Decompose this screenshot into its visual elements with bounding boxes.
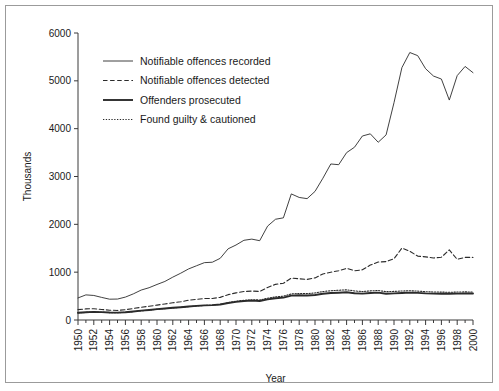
x-tick-label: 1982 — [325, 329, 336, 352]
x-tick-label: 1956 — [120, 329, 131, 352]
x-tick-label: 1988 — [373, 329, 384, 352]
series-line-1 — [78, 53, 473, 300]
y-tick-label: 4000 — [49, 123, 72, 134]
x-tick-label: 1992 — [404, 329, 415, 352]
y-tick-label: 5000 — [49, 75, 72, 86]
x-tick-label: 1980 — [310, 329, 321, 352]
y-tick-label: 2000 — [49, 219, 72, 230]
x-tick-label: 1986 — [357, 329, 368, 352]
x-tick-label: 1970 — [231, 329, 242, 352]
x-tick-label: 1964 — [183, 329, 194, 352]
y-tick-label: 0 — [65, 315, 71, 326]
x-tick-label: 2000 — [468, 329, 479, 352]
x-tick-label: 1976 — [278, 329, 289, 352]
x-axis-title: Year — [265, 373, 286, 384]
y-tick-label: 3000 — [49, 171, 72, 182]
y-axis-title: Thousands — [22, 152, 33, 201]
x-tick-label: 1950 — [73, 329, 84, 352]
x-tick-label: 1998 — [452, 329, 463, 352]
x-tick-label: 1952 — [88, 329, 99, 352]
series-line-2 — [78, 248, 473, 310]
x-tick-label: 1974 — [262, 329, 273, 352]
legend-label-2: Notifiable offences detected — [140, 74, 270, 86]
x-tick-label: 1966 — [199, 329, 210, 352]
legend-label-1: Notifiable offences recorded — [140, 55, 271, 67]
x-tick-label: 1984 — [341, 329, 352, 352]
x-tick-label: 1990 — [389, 329, 400, 352]
chart-figure: 0100020003000400050006000195019521954195… — [0, 0, 499, 391]
x-tick-label: 1968 — [215, 329, 226, 352]
series-line-3 — [78, 292, 473, 312]
x-tick-label: 1958 — [136, 329, 147, 352]
x-tick-label: 1996 — [436, 329, 447, 352]
y-tick-label: 1000 — [49, 267, 72, 278]
x-tick-label: 1972 — [246, 329, 257, 352]
x-tick-label: 1954 — [104, 329, 115, 352]
line-chart: 0100020003000400050006000195019521954195… — [0, 0, 499, 391]
x-tick-label: 1960 — [152, 329, 163, 352]
x-tick-label: 1994 — [420, 329, 431, 352]
x-tick-label: 1962 — [167, 329, 178, 352]
legend-label-3: Offenders prosecuted — [140, 94, 241, 106]
legend-label-4: Found guilty & cautioned — [140, 113, 256, 125]
y-tick-label: 6000 — [49, 28, 72, 39]
x-tick-label: 1978 — [294, 329, 305, 352]
